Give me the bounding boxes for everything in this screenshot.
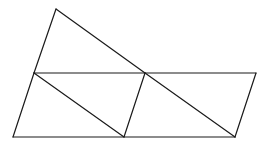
geometry-diagram xyxy=(0,0,269,148)
edge-L-BM xyxy=(34,73,124,137)
edge-M-BM xyxy=(124,73,145,137)
edge-T-M xyxy=(56,9,145,73)
edge-T-L xyxy=(34,9,56,73)
edge-M-BR xyxy=(145,73,235,137)
edge-L-BL xyxy=(13,73,34,137)
edge-group xyxy=(13,9,256,137)
edge-R-BR xyxy=(235,73,256,137)
